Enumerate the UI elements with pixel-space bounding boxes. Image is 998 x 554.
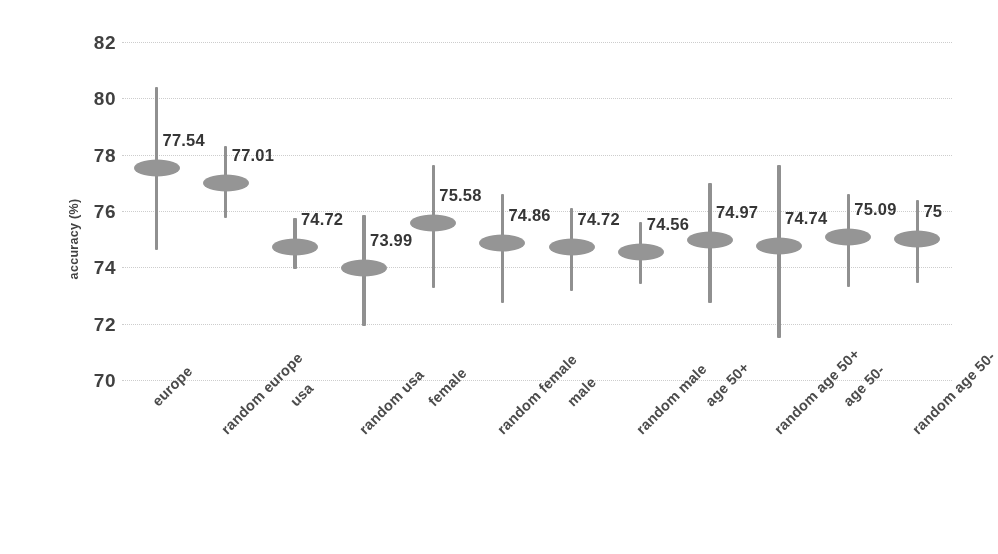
data-value-label: 75.09 (854, 199, 896, 218)
y-axis-tick-label: 70 (76, 371, 116, 390)
data-marker (618, 243, 664, 260)
data-marker (825, 228, 871, 245)
data-marker (687, 232, 733, 249)
data-value-label: 74.72 (301, 210, 343, 229)
data-value-label: 74.74 (785, 209, 827, 228)
data-marker (203, 174, 249, 191)
y-axis-tick-label: 74 (76, 258, 116, 277)
y-axis-tick-label: 72 (76, 314, 116, 333)
gridline (122, 324, 952, 326)
x-axis-label: male (564, 374, 599, 409)
y-axis-tick-label: 78 (76, 145, 116, 164)
data-marker (756, 238, 802, 255)
y-axis-tick-label: 82 (76, 33, 116, 52)
data-value-label: 77.01 (232, 145, 274, 164)
data-value-label: 74.56 (647, 214, 689, 233)
data-value-label: 73.99 (370, 230, 412, 249)
data-value-label: 75 (923, 202, 942, 221)
x-axis-label: usa (287, 380, 316, 409)
data-marker (134, 159, 180, 176)
data-marker (410, 214, 456, 231)
data-marker (479, 235, 525, 252)
plot-area: 77.5477.0174.7273.9975.5874.8674.7274.56… (122, 42, 952, 380)
gridline (122, 98, 952, 100)
y-axis-tick-label: 76 (76, 202, 116, 221)
data-value-label: 74.97 (716, 203, 758, 222)
data-marker (549, 239, 595, 256)
gridline (122, 267, 952, 269)
data-value-label: 75.58 (439, 185, 481, 204)
data-marker (272, 239, 318, 256)
y-axis-tick-label: 80 (76, 89, 116, 108)
data-marker (894, 231, 940, 248)
data-marker (341, 259, 387, 276)
y-axis-ticks: 82807876747270 (72, 42, 116, 380)
data-value-label: 74.72 (578, 210, 620, 229)
gridline (122, 42, 952, 44)
data-value-label: 77.54 (163, 130, 205, 149)
data-value-label: 74.86 (508, 206, 550, 225)
x-axis-labels: europerandom europeusarandom usafemalera… (122, 380, 952, 550)
